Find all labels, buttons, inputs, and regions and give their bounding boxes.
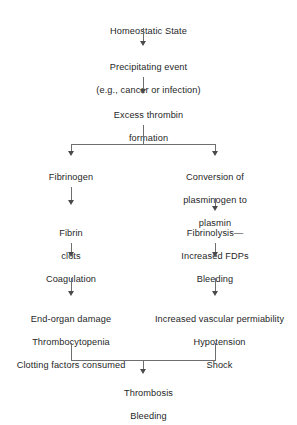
arrow-fibrinogen-to-fibrin-clots-head (68, 200, 74, 205)
node-precipitating-event-line-1: Precipitating event (0, 62, 297, 74)
node-coagulation: Coagulation (6, 262, 136, 297)
node-left-outcomes: End-organ damage Thrombocytopenia Clotti… (0, 302, 142, 383)
node-fibrinolysis-line-1: Fibrinolysis— (155, 228, 275, 240)
node-conversion-line-1: Conversion of (155, 172, 275, 184)
node-fibrinogen-line-1: Fibrinogen (6, 172, 136, 184)
node-fibrinolysis-line-2: Increased FDPs (155, 251, 275, 263)
node-precipitating-event-line-2: (e.g., cancer or infection) (0, 85, 297, 97)
node-excess-thrombin-formation: Excess thrombin formation (0, 98, 297, 156)
node-fibrin-clots-line-2: clots (6, 251, 136, 263)
node-bleeding-right-branch: Bleeding (155, 262, 275, 297)
node-final-line-1: Thrombosis (0, 388, 297, 400)
node-conversion-line-2: plasminogen to (155, 195, 275, 207)
node-homeostatic-state: Homeostatic State (0, 14, 297, 49)
node-final-thrombosis-bleeding: Thrombosis Bleeding (0, 376, 297, 425)
node-right-outcomes: Increased vascular permiability Hypotens… (142, 302, 297, 383)
node-left-outcomes-line-3: Clotting factors consumed (0, 360, 142, 372)
node-homeostatic-state-line-1: Homeostatic State (0, 26, 297, 38)
node-excess-thrombin-line-1: Excess thrombin (0, 110, 297, 122)
node-coagulation-line-1: Coagulation (6, 274, 136, 286)
node-right-outcomes-line-1: Increased vascular permiability (142, 314, 297, 326)
node-excess-thrombin-line-2: formation (0, 133, 297, 145)
node-left-outcomes-line-1: End-organ damage (0, 314, 142, 326)
node-bleeding-right-line-1: Bleeding (155, 274, 275, 286)
node-final-line-2: Bleeding (0, 411, 297, 423)
node-left-outcomes-line-2: Thrombocytopenia (0, 337, 142, 349)
node-fibrinogen: Fibrinogen (6, 160, 136, 195)
node-fibrin-clots-line-1: Fibrin (6, 228, 136, 240)
node-right-outcomes-line-3: Shock (142, 360, 297, 372)
node-right-outcomes-line-2: Hypotension (142, 337, 297, 349)
